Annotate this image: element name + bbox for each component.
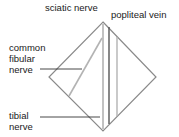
label-sciatic-nerve: sciatic nerve bbox=[45, 2, 98, 13]
label-tibial-nerve: tibial nerve bbox=[9, 110, 33, 132]
common-fibular-nerve-line bbox=[69, 38, 102, 96]
label-common-fibular-nerve: common fibular nerve bbox=[9, 42, 45, 75]
label-popliteal-vein: popliteal vein bbox=[111, 9, 166, 20]
